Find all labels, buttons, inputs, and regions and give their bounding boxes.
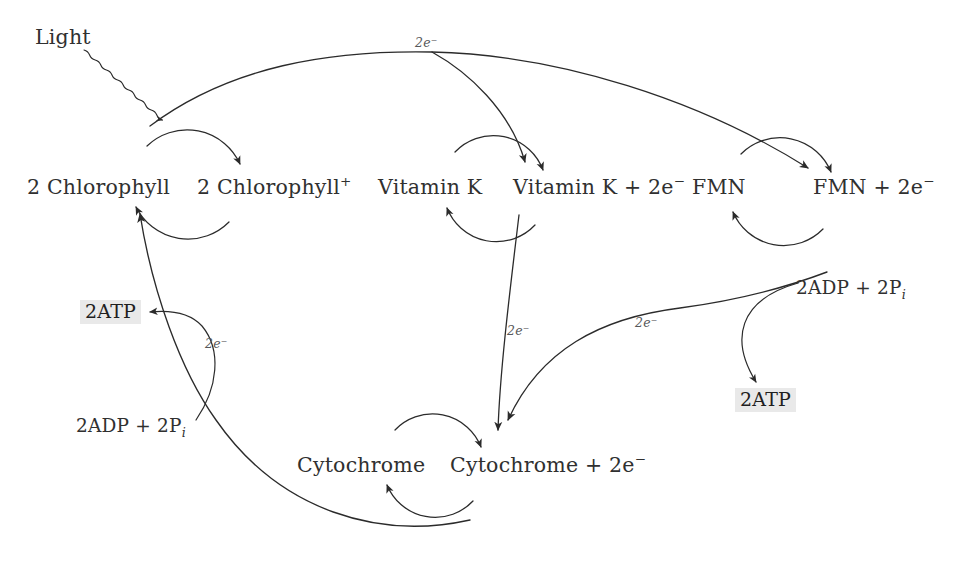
right-atp-product: 2ATP	[735, 388, 796, 412]
node-fmn-oxidized: FMN + 2e−	[813, 177, 935, 198]
cytochrome-reduction-arc	[387, 485, 473, 517]
node-vitamin-k-oxidized-text: Vitamin K + 2e	[513, 175, 674, 199]
left-atp-arrow	[150, 311, 215, 420]
vitamin-k-oxidation-arc	[455, 136, 543, 170]
node-cytochrome-oxidized-charge: −	[635, 451, 647, 467]
left-atp-product: 2ATP	[80, 300, 141, 324]
electron-label-chlorophyll-branch-text: 2e⁻	[205, 336, 228, 351]
node-chlorophyll-oxidized-text: 2 Chlorophyll	[197, 175, 340, 199]
cytochrome-oxidation-arc	[395, 414, 481, 447]
node-chlorophyll-reduced: 2 Chlorophyll	[27, 177, 170, 198]
node-cytochrome-oxidized-text: Cytochrome + 2e	[450, 453, 635, 477]
electron-label-fmn-to-cytochrome-text: 2e⁻	[635, 315, 658, 330]
electron-label-top: 2e⁻	[415, 37, 438, 50]
node-fmn-oxidized-text: FMN + 2e	[813, 175, 923, 199]
right-adp-substrate: 2ADP + 2Pi	[796, 279, 906, 298]
electron-label-chlorophyll-branch: 2e⁻	[205, 338, 228, 351]
node-fmn-oxidized-charge: −	[923, 173, 935, 189]
cytochrome-to-chlorophyll-arc	[140, 214, 470, 526]
chlorophyll-oxidation-arc	[147, 130, 240, 164]
node-vitamin-k-oxidized-charge: −	[674, 173, 686, 189]
electron-label-vitamin-k-to-cytochrome: 2e⁻	[507, 325, 530, 338]
vitamin-k-reduction-arc	[447, 208, 535, 242]
left-adp-substrate: 2ADP + 2Pi	[76, 417, 186, 436]
right-adp-substrate-text: 2ADP + 2P	[796, 277, 902, 298]
chlorophyll-to-fmn-arc	[150, 52, 808, 168]
node-vitamin-k-reduced: Vitamin K	[378, 177, 482, 198]
node-fmn-reduced: FMN	[692, 177, 746, 198]
left-adp-substrate-sub: i	[182, 425, 186, 440]
node-cytochrome-oxidized: Cytochrome + 2e−	[450, 455, 646, 476]
right-adp-substrate-sub: i	[902, 287, 906, 302]
node-chlorophyll-oxidized: 2 Chlorophyll+	[197, 177, 352, 198]
light-wavy-arrow	[84, 50, 162, 120]
node-chlorophyll-oxidized-charge: +	[340, 173, 352, 189]
chlorophyll-reduction-arc	[136, 207, 229, 239]
fmn-reduction-arc	[733, 212, 823, 246]
node-vitamin-k-oxidized: Vitamin K + 2e−	[513, 177, 685, 198]
apex-to-vitamin-k-arc	[432, 52, 525, 162]
node-cytochrome-reduced: Cytochrome	[297, 455, 425, 476]
right-atp-arrow	[742, 283, 798, 382]
diagram-canvas: Light 2e⁻ 2 Chlorophyll 2 Chlorophyll+ V…	[0, 0, 954, 573]
electron-label-vitamin-k-to-cytochrome-text: 2e⁻	[507, 323, 530, 338]
light-label: Light	[35, 27, 91, 48]
electron-label-fmn-to-cytochrome: 2e⁻	[635, 317, 658, 330]
left-adp-substrate-text: 2ADP + 2P	[76, 415, 182, 436]
electron-label-top-text: 2e⁻	[415, 35, 438, 50]
